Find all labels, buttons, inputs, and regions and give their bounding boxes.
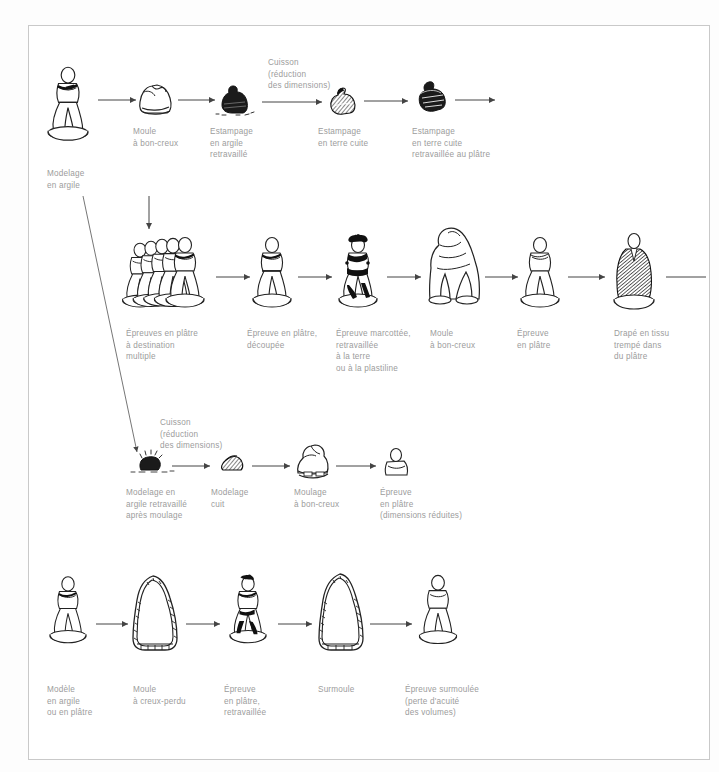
- caption-n4: Estampage en terre cuite: [318, 126, 400, 149]
- caption-n6: Épreuves en plâtre à destination multipl…: [126, 328, 226, 363]
- figure-mould-bon-creux: [140, 85, 171, 114]
- figure-terracotta-stamp: [331, 88, 355, 114]
- caption-n9: Moule à bon-creux: [430, 328, 506, 351]
- caption-n1: Modelage en argile: [47, 168, 117, 191]
- figure-hollow-mould: [429, 228, 479, 304]
- caption-n15: Épreuve en plâtre (dimensions réduites): [380, 487, 478, 522]
- figure-surmould: [319, 574, 363, 650]
- caption-n8: Épreuve marcottée, retravaillée à la ter…: [336, 328, 430, 374]
- arrow-diagonal: [83, 196, 137, 452]
- note-cuisson-2: Cuisson (réduction des dimensions): [160, 417, 250, 452]
- figure-plaster-proof: [521, 238, 559, 308]
- figure-clay-model: [48, 67, 88, 140]
- figure-cut-plaster: [253, 238, 291, 308]
- figure-surmoulded-proof: [419, 575, 456, 643]
- caption-n19: Surmoule: [318, 684, 388, 696]
- figure-casting-mould: [298, 445, 328, 478]
- caption-n20: Épreuve surmoulée (perte d'acuité des vo…: [405, 684, 507, 719]
- caption-n14: Moulage à bon-creux: [294, 487, 374, 510]
- diagram-canvas: Modelage en argile Moule à bon-creux Est…: [0, 0, 719, 772]
- caption-n13: Modelage cuit: [211, 487, 273, 510]
- figure-small-plaster-bust: [385, 449, 407, 476]
- figure-terracotta-plaster-stamp: [419, 82, 445, 111]
- caption-n7: Épreuve en plâtre, découpée: [247, 328, 339, 351]
- diagram-artwork: [0, 0, 719, 772]
- figure-fired-model: [222, 456, 243, 470]
- caption-n12: Modelage en argile retravaillé après mou…: [126, 487, 210, 522]
- figure-model-clay-or-plaster: [50, 577, 86, 643]
- figure-reworked-plaster: [230, 574, 266, 642]
- figure-draped-dark: [614, 234, 654, 310]
- caption-n11: Drapé en tissu trempé dans du plâtre: [614, 328, 700, 363]
- caption-n16: Modèle en argile ou en plâtre: [47, 684, 119, 719]
- caption-n3: Estampage en argile retravaillé: [210, 126, 288, 161]
- figure-clay-stamp-dark: [216, 86, 254, 115]
- figure-reworked-clay-blob: [131, 450, 174, 472]
- caption-n10: Épreuve en plâtre: [517, 328, 587, 351]
- figure-multiple-plaster: [123, 238, 204, 308]
- caption-n2: Moule à bon-creux: [133, 126, 209, 149]
- figure-lost-mould: [133, 576, 177, 650]
- caption-n18: Épreuve en plâtre, retravaillée: [224, 684, 298, 719]
- figure-layered-marcottee: [339, 234, 377, 307]
- caption-n17: Moule à creux-perdu: [133, 684, 217, 707]
- note-cuisson-1: Cuisson (réduction des dimensions): [268, 57, 358, 92]
- caption-n5: Estampage en terre cuite retravaillée au…: [412, 126, 512, 161]
